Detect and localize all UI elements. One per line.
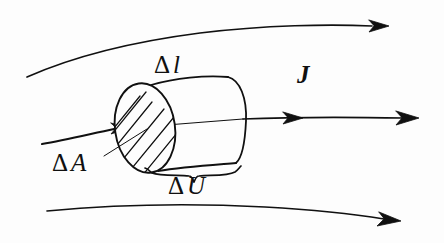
delta-a-symbol: A bbox=[71, 149, 86, 176]
label-delta-u: ΔU bbox=[168, 173, 205, 198]
upper-streamline bbox=[27, 20, 389, 77]
label-delta-a: ΔA bbox=[52, 150, 86, 175]
delta-glyph: Δ bbox=[168, 172, 187, 199]
middle-streamline bbox=[42, 111, 419, 144]
lower-streamline bbox=[47, 205, 401, 226]
cylinder-bottom-edge bbox=[158, 163, 236, 171]
figure-drawing bbox=[0, 0, 444, 243]
delta-u-symbol: U bbox=[187, 172, 205, 199]
figure-root: Δl ΔA ΔU J bbox=[0, 0, 444, 243]
delta-l-symbol: l bbox=[173, 51, 180, 78]
delta-glyph: Δ bbox=[52, 149, 71, 176]
label-delta-l: Δl bbox=[154, 52, 180, 77]
label-current-density: J bbox=[297, 62, 310, 87]
delta-glyph: Δ bbox=[154, 51, 173, 78]
